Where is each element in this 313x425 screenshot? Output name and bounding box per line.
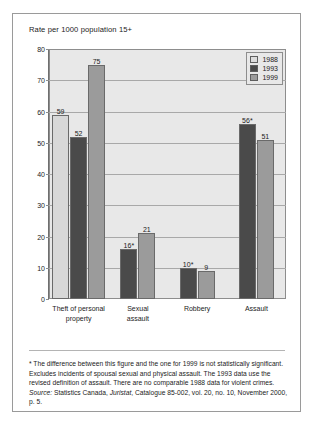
bar-1988[interactable]: 59 <box>52 115 69 299</box>
footnote-block: * The difference between this figure and… <box>29 359 288 407</box>
bar-1999[interactable]: 21 <box>138 233 155 299</box>
x-axis-category-label: Sexualassault <box>127 304 149 323</box>
source-label: Source: <box>29 389 52 396</box>
bar-1999[interactable]: 51 <box>257 140 274 299</box>
bar-value-label: 52 <box>75 130 83 137</box>
bar-value-label: 75 <box>93 58 101 65</box>
footnote-divider <box>29 350 285 351</box>
y-axis-tick-label: 30 <box>37 202 45 209</box>
footnote-note: * The difference between this figure and… <box>29 359 288 388</box>
bar-value-label: 59 <box>57 108 65 115</box>
figure-frame: Rate per 1000 population 15+ 01020304050… <box>12 13 301 412</box>
y-axis-tick-label: 10 <box>37 264 45 271</box>
bar-group: 16*21Sexualassault <box>108 49 167 299</box>
y-axis-tick-mark <box>46 299 49 300</box>
chart-plot-wrapper: 01020304050607080 595275Theft of persona… <box>49 49 286 299</box>
y-axis-tick-label: 80 <box>37 46 45 53</box>
bar-value-label: 21 <box>143 226 151 233</box>
bar-value-label: 10* <box>183 261 194 268</box>
bar-1993[interactable]: 10* <box>180 268 197 299</box>
chart-title: Rate per 1000 population 15+ <box>29 25 132 34</box>
bar-group: 595275Theft of personalproperty <box>49 49 108 299</box>
bar-value-label: 51 <box>261 133 269 140</box>
footnote-source: Source: Statistics Canada, Juristat, Cat… <box>29 388 288 407</box>
y-axis-tick-label: 0 <box>41 296 45 303</box>
legend-item-1993: 1993 <box>250 64 278 73</box>
bar-1993[interactable]: 16* <box>120 249 137 299</box>
legend-swatch-1993 <box>250 65 258 72</box>
legend-item-1988: 1988 <box>250 55 278 64</box>
bar-value-label: 56* <box>242 117 253 124</box>
legend-label-1988: 1988 <box>262 56 278 63</box>
y-axis-tick-label: 50 <box>37 139 45 146</box>
bar-1999[interactable]: 9 <box>198 271 215 299</box>
legend-swatch-1988 <box>250 56 258 63</box>
legend-label-1999: 1999 <box>262 74 278 81</box>
legend-label-1993: 1993 <box>262 65 278 72</box>
chart-legend: 1988 1993 1999 <box>246 52 283 85</box>
bar-value-label: 9 <box>204 264 208 271</box>
x-axis-category-label: Robbery <box>184 304 210 314</box>
x-axis-category-label: Theft of personalproperty <box>52 304 105 323</box>
x-axis-category-label: Assault <box>245 304 268 314</box>
bar-1993[interactable]: 52 <box>70 137 87 300</box>
bar-1993[interactable]: 56* <box>239 124 256 299</box>
bar-group: 10*9Robbery <box>168 49 227 299</box>
y-axis-tick-label: 40 <box>37 171 45 178</box>
source-text-part1: Statistics Canada, <box>52 389 110 396</box>
legend-item-1999: 1999 <box>250 73 278 82</box>
bar-value-label: 16* <box>124 242 135 249</box>
y-axis-tick-label: 20 <box>37 233 45 240</box>
y-axis-tick-label: 70 <box>37 77 45 84</box>
legend-swatch-1999 <box>250 74 258 81</box>
y-axis-tick-label: 60 <box>37 108 45 115</box>
bar-group: 56*51Assault <box>227 49 286 299</box>
source-publication: Juristat <box>110 389 132 396</box>
bar-1999[interactable]: 75 <box>88 65 105 299</box>
